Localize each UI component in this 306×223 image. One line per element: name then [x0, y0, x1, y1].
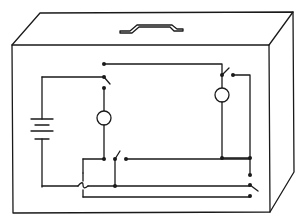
switch-bottom-middle [83, 151, 250, 186]
lamp-left-icon [97, 111, 111, 125]
battery-icon [31, 77, 53, 187]
lamp-right-icon [215, 88, 229, 102]
switch-top-left [102, 62, 110, 90]
box-front-face [12, 45, 270, 213]
box-side-face [270, 12, 294, 212]
box-top-face [12, 12, 293, 45]
handle-icon [120, 25, 183, 33]
diagram-canvas [0, 0, 306, 223]
box-enclosure [12, 12, 294, 213]
wire-top [104, 64, 222, 74]
wire-right-return [233, 75, 250, 158]
wire-crossover [78, 183, 88, 188]
circuit-box-diagram [0, 0, 306, 223]
switch-bottom-right [248, 183, 258, 198]
